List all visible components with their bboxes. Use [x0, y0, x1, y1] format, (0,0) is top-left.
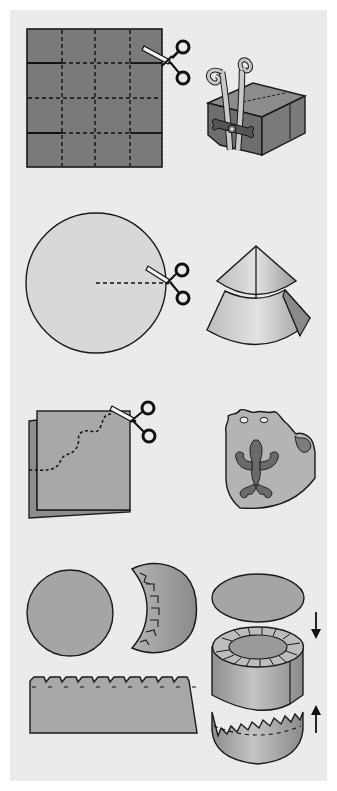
craft-instructions-diagram	[0, 0, 337, 791]
folded-sheet	[29, 411, 130, 518]
lid	[212, 574, 304, 622]
circle-lid-piece	[27, 570, 113, 656]
notched-strip	[30, 677, 197, 733]
